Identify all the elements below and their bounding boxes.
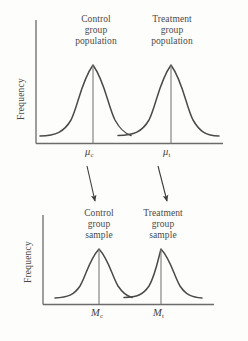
- top-treatment-curve: [118, 65, 219, 136]
- bottom-control-label: Control group sample: [68, 208, 130, 242]
- bottom-treatment-label: Treatment group sample: [130, 208, 196, 242]
- bottom-control-tick-subscript: c: [100, 312, 103, 319]
- top-treatment-label-line2: group: [134, 25, 210, 36]
- top-treatment-tick-symbol: μ: [163, 146, 168, 157]
- control-population-to-sample-arrow: [87, 166, 95, 201]
- top-control-label-line1: Control: [60, 14, 132, 25]
- top-y-axis-label: Frequency: [16, 78, 26, 120]
- bottom-treatment-curve: [124, 249, 202, 298]
- bottom-control-curve: [55, 249, 132, 298]
- bottom-control-label-line3: sample: [68, 230, 130, 241]
- top-control-label: Control group population: [60, 14, 132, 48]
- bottom-y-axis-label: Frequency: [23, 241, 33, 283]
- top-treatment-label: Treatment group population: [134, 14, 210, 48]
- bottom-control-label-line2: group: [68, 219, 130, 230]
- bottom-control-tick-label: Mc: [91, 307, 103, 318]
- top-treatment-label-line1: Treatment: [134, 14, 210, 25]
- figure-canvas: [0, 0, 248, 341]
- bottom-control-tick-symbol: M: [91, 307, 100, 318]
- bottom-treatment-label-line3: sample: [130, 230, 196, 241]
- top-treatment-tick-label: μt: [163, 146, 170, 157]
- bottom-treatment-label-line2: group: [130, 219, 196, 230]
- top-control-tick-subscript: c: [91, 151, 94, 158]
- bottom-treatment-label-line1: Treatment: [130, 208, 196, 219]
- top-control-tick-symbol: μ: [85, 146, 90, 157]
- top-control-label-line3: population: [60, 36, 132, 47]
- bottom-treatment-tick-subscript: t: [162, 312, 164, 319]
- top-treatment-label-line3: population: [134, 36, 210, 47]
- bottom-control-label-line1: Control: [68, 208, 130, 219]
- top-control-tick-label: μc: [85, 146, 93, 157]
- top-control-label-line2: group: [60, 25, 132, 36]
- statistics-figure: Frequency Control group population Treat…: [0, 0, 248, 341]
- bottom-treatment-tick-label: Mt: [153, 307, 164, 318]
- top-control-curve: [40, 65, 131, 136]
- treatment-population-to-sample-arrow: [158, 166, 167, 201]
- bottom-treatment-tick-symbol: M: [153, 307, 162, 318]
